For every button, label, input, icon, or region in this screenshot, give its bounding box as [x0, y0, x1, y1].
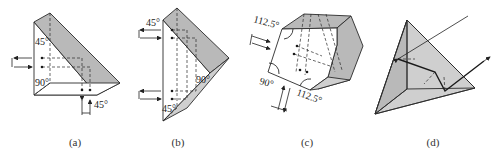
caption-c: (c) — [301, 136, 313, 148]
angle-label: 112.5° — [252, 13, 280, 30]
angle-label: 45° — [94, 99, 108, 110]
angle-label: 90° — [258, 75, 274, 89]
prism-b: 45° 90° 45° — [139, 8, 229, 121]
angle-label: 45° — [35, 36, 49, 47]
prism-d — [375, 16, 490, 114]
caption-d: (d) — [427, 136, 440, 148]
angle-label: 45° — [146, 17, 160, 28]
angle-label: 112.5° — [295, 87, 323, 106]
angle-label: 90° — [196, 74, 210, 85]
caption-a: (a) — [69, 136, 81, 148]
prism-c: 112.5° 90° 112.5° — [250, 13, 363, 112]
angle-label: 90° — [35, 77, 49, 88]
prism-a: 45° 90° 45° — [12, 13, 120, 115]
angle-label: 45° — [162, 103, 176, 114]
caption-b: (b) — [172, 136, 185, 148]
